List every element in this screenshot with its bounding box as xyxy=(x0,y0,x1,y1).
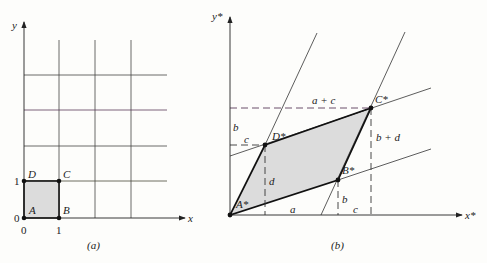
x-axis-label: x xyxy=(187,212,193,224)
panel-b: y* x* A* B* C* D* a + c b c b + d d b a … xyxy=(211,10,476,252)
vertex-b-label: B xyxy=(63,204,70,216)
caption-b: (b) xyxy=(331,239,344,252)
tick-y-1: 1 xyxy=(14,175,20,187)
dim-a-plus-c: a + c xyxy=(312,94,335,106)
vertex-d-star-label: D* xyxy=(271,130,286,142)
vertex-c-star-label: C* xyxy=(375,93,388,105)
vertex-a-label: A xyxy=(28,204,36,216)
x-star-axis-label: x* xyxy=(464,209,476,221)
linear-transform-diagram: y x 0 1 0 1 A B C D (a) y* xyxy=(0,0,487,263)
dim-a-bottom: a xyxy=(290,203,296,215)
y-axis-label: y xyxy=(11,19,17,31)
vertex-c-label: C xyxy=(63,168,71,180)
panel-a: y x 0 1 0 1 A B C D (a) xyxy=(11,19,193,252)
dim-b-small: b xyxy=(342,193,348,205)
tick-x-0: 0 xyxy=(21,224,27,236)
vertex-d-label: D xyxy=(27,168,36,180)
tick-x-1: 1 xyxy=(56,224,62,236)
caption-a: (a) xyxy=(87,239,100,252)
vertex-b-star-label: B* xyxy=(342,164,355,176)
dim-b-plus-d: b + d xyxy=(376,131,400,143)
tick-y-0: 0 xyxy=(14,212,20,224)
dim-c-left: c xyxy=(244,133,249,145)
parallelogram xyxy=(230,108,371,215)
dim-b-left: b xyxy=(233,121,239,133)
dim-d: d xyxy=(269,175,275,187)
vertex-a-star-label: A* xyxy=(235,198,249,210)
y-star-axis-label: y* xyxy=(211,10,223,22)
dim-c-bottom: c xyxy=(353,203,358,215)
